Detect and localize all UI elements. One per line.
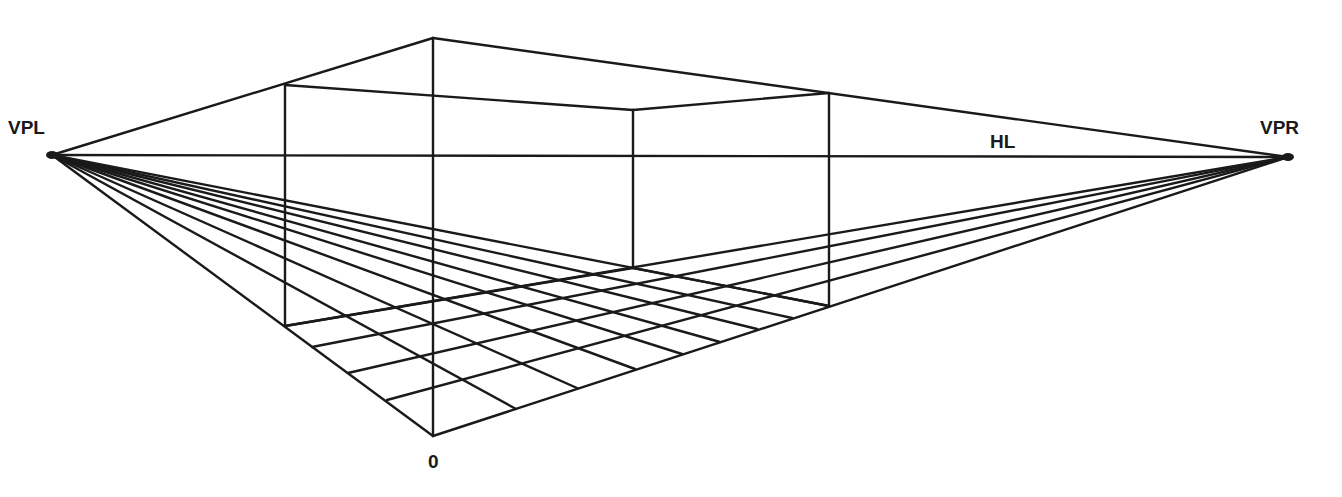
vpl-label: VPL [8, 118, 45, 137]
perspective-diagram [0, 0, 1342, 497]
grid-line-vpl-1 [52, 155, 577, 388]
grid-line-vpr-corner [285, 157, 1288, 326]
grid-line-vpr-2 [312, 157, 1288, 347]
top-back-left-edge [285, 85, 633, 110]
grid-line-vpl-corner [52, 155, 829, 306]
vpr-label: VPR [1260, 118, 1299, 137]
grid-line-vpl-4 [52, 155, 720, 342]
horizon-line-label: HL [990, 132, 1015, 151]
grid-line-vpr-0 [387, 157, 1288, 400]
horizon-line [52, 155, 1288, 157]
grid-line-vpl-2 [52, 155, 635, 369]
vpr-dot [1282, 153, 1294, 161]
vpl-dot [46, 151, 58, 159]
grid-line-vpl-3 [52, 155, 682, 354]
top-left-vp-line [52, 38, 433, 155]
grid-line-vpr-1 [348, 157, 1288, 373]
origin-label: 0 [428, 452, 439, 471]
construction-lines [52, 38, 1288, 436]
top-back-right-edge [633, 93, 829, 110]
top-right-vp-line [433, 38, 1288, 157]
